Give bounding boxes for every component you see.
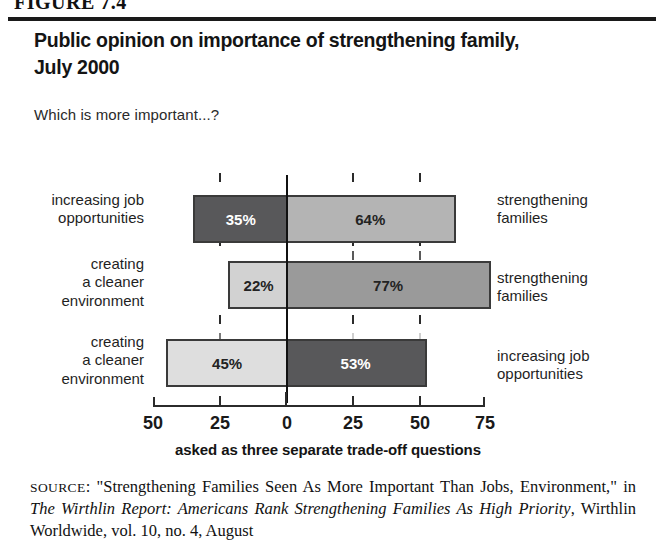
- bar-segment-left-0: 35%: [195, 197, 287, 241]
- x-tick-label-0: 50: [143, 413, 163, 434]
- source-text: : "Strengthening Families Seen As More I…: [86, 477, 636, 496]
- x-axis-cap-right: [483, 397, 485, 406]
- tick-dash-mid2-25r: [352, 315, 354, 324]
- row-right-label-0-line1: strengthening: [497, 191, 647, 209]
- bar-segment-right-0: 64%: [287, 197, 454, 241]
- x-tick-label-4: 50: [410, 413, 430, 434]
- row-right-label-2-line1: increasing job: [497, 347, 647, 365]
- bar-segment-right-2: 53%: [286, 341, 425, 385]
- tick-dash-top-25l: [219, 173, 221, 182]
- tick-dash-in1-b: [419, 251, 421, 260]
- tick-dash-mid2-50r: [419, 315, 421, 324]
- source-note: SOURCE: "Strengthening Families Seen As …: [30, 476, 636, 541]
- row-left-label-2-line1: creating: [14, 333, 144, 351]
- zero-axis-line: [286, 175, 288, 403]
- figure-label: FIGURE 7.4: [14, 0, 127, 14]
- source-prefix: SOURCE: [30, 480, 86, 495]
- tick-dash-mid2-25l: [219, 315, 221, 324]
- bar-segment-left-2: 45%: [168, 341, 286, 385]
- row-right-label-1-line1: strengthening: [497, 269, 647, 287]
- x-axis-tick-0: [219, 396, 221, 405]
- plot-region: 35% 64% 22% 77% 45% 53%: [153, 185, 485, 400]
- tick-dash-top-50r: [419, 173, 421, 182]
- row-left-label-1-line2: a cleaner: [14, 273, 144, 291]
- row-right-label-1: strengthening families: [497, 269, 647, 306]
- x-tick-label-2: 0: [282, 413, 292, 434]
- chart-area: increasing job opportunities creating a …: [0, 155, 656, 455]
- row-right-label-1-line2: families: [497, 287, 647, 305]
- x-axis-caption: asked as three separate trade-off questi…: [0, 441, 656, 458]
- row-left-label-1: creating a cleaner environment: [14, 255, 144, 310]
- bar-row-0[interactable]: 35% 64%: [193, 195, 456, 243]
- row-right-label-2: increasing job opportunities: [497, 347, 647, 384]
- x-axis-tick-2: [352, 396, 354, 405]
- row-left-label-0-line2: opportunities: [14, 209, 144, 227]
- source-title-italic: The Wirthlin Report: Americans Rank Stre…: [30, 499, 571, 518]
- row-right-label-0: strengthening families: [497, 191, 647, 228]
- bar-row-2[interactable]: 45% 53%: [166, 339, 427, 387]
- chart-title: Public opinion on importance of strength…: [34, 27, 555, 81]
- row-left-label-0: increasing job opportunities: [14, 191, 144, 228]
- row-left-label-0-line1: increasing job: [14, 191, 144, 209]
- row-right-label-2-line2: opportunities: [497, 365, 647, 383]
- x-axis-line: [153, 405, 485, 407]
- chart-subtitle: Which is more important...?: [34, 106, 219, 123]
- row-right-label-0-line2: families: [497, 209, 647, 227]
- row-left-label-2-line2: a cleaner: [14, 351, 144, 369]
- x-tick-label-5: 75: [475, 413, 495, 434]
- row-left-label-1-line1: creating: [14, 255, 144, 273]
- x-tick-label-3: 25: [343, 413, 363, 434]
- bar-segment-left-1: 22%: [230, 263, 287, 307]
- x-axis-cap-left: [153, 397, 155, 406]
- x-axis-tick-3: [419, 396, 421, 405]
- header-rule: [8, 17, 656, 21]
- x-tick-label-1: 25: [210, 413, 230, 434]
- bar-segment-right-1: 77%: [287, 263, 489, 307]
- row-left-label-1-line3: environment: [14, 292, 144, 310]
- bar-row-1[interactable]: 22% 77%: [228, 261, 491, 309]
- row-left-label-2-line3: environment: [14, 370, 144, 388]
- tick-dash-top-25r: [352, 173, 354, 182]
- tick-dash-in1-a: [352, 251, 354, 260]
- x-axis-tick-1: [285, 392, 287, 405]
- row-left-label-2: creating a cleaner environment: [14, 333, 144, 388]
